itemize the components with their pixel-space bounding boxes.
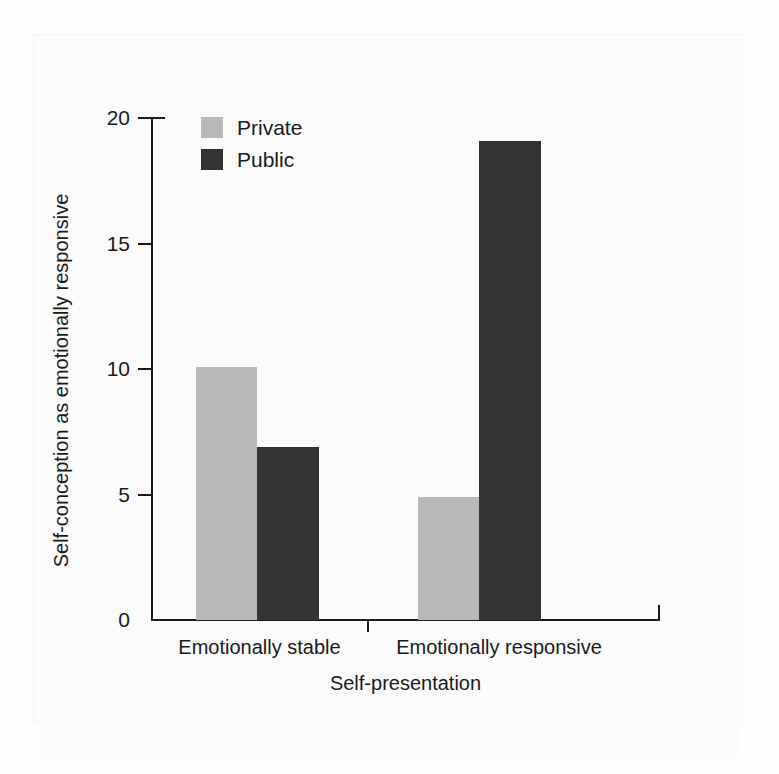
chart-legend: Private Public xyxy=(201,112,391,176)
legend-label-private: Private xyxy=(237,117,302,138)
y-axis-title: Self-conception as emotionally responsiv… xyxy=(50,166,73,596)
legend-swatch-public-icon xyxy=(201,149,223,170)
x-axis-title: Self-presentation xyxy=(152,672,659,695)
legend-item-private[interactable]: Private xyxy=(201,112,391,142)
bar-private-emotionally-stable[interactable] xyxy=(196,367,257,621)
legend-swatch-private-icon xyxy=(201,117,223,138)
y-tick-label-10: 10 xyxy=(82,358,130,379)
y-tick-label-15: 15 xyxy=(82,233,130,254)
y-tick-20 xyxy=(138,117,152,119)
y-tick-10 xyxy=(138,368,152,370)
legend-item-public[interactable]: Public xyxy=(201,144,391,174)
x-group-label-emotionally-responsive: Emotionally responsive xyxy=(369,636,629,658)
bar-public-emotionally-responsive[interactable] xyxy=(479,141,541,620)
y-tick-label-5: 5 xyxy=(82,484,130,505)
bar-public-emotionally-stable[interactable] xyxy=(257,447,319,620)
legend-label-public: Public xyxy=(237,149,294,170)
y-tick-label-20: 20 xyxy=(82,107,130,128)
bar-chart: 20 15 10 5 0 Emotionally stable Emotiona… xyxy=(0,0,779,774)
y-tick-label-0: 0 xyxy=(82,609,130,630)
x-group-label-emotionally-stable: Emotionally stable xyxy=(152,636,367,658)
bar-private-emotionally-responsive[interactable] xyxy=(418,497,479,620)
y-tick-5 xyxy=(138,494,152,496)
x-axis-group-separator-tick xyxy=(367,621,369,632)
plot-area xyxy=(152,118,659,620)
y-tick-15 xyxy=(138,243,152,245)
